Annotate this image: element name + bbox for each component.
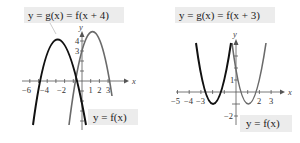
right-f-curve [232,43,266,104]
right-y-label: y [232,29,237,39]
left-ytick-3: 3 [75,46,79,56]
left-title-label: y = g(x) = f(x + 4) [28,9,109,22]
figure: y = g(x) = f(x + 4) x y [0,0,300,143]
left-ytick-4: 4 [75,36,80,46]
right-g-curve [196,43,231,104]
left-graph: y = g(x) = f(x + 4) x y [22,7,138,130]
left-xtick-1: 1 [89,85,93,95]
right-x-arrow-icon [280,90,285,95]
right-graph: y = g(x) = f(x + 3) x y −5 [171,7,292,132]
right-ytick-neg2: −2 [224,111,233,121]
right-xtick-neg5: −5 [171,96,180,106]
left-x-label: x [131,76,136,86]
right-xtick-neg4: −4 [184,96,194,106]
right-x-label: x [287,87,292,97]
left-xtick-2: 2 [97,85,101,95]
left-xtick-neg6: −6 [22,85,31,95]
left-title-pointer [50,23,56,34]
right-xtick-3: 3 [269,96,273,106]
right-f-label: y = f(x) [246,117,280,130]
right-xtick-neg3: −3 [196,96,205,106]
left-xtick-neg2: −2 [57,85,66,95]
right-xtick-2: 2 [257,96,261,106]
left-y-label: y [78,22,83,32]
left-xtick-3: 3 [106,85,110,95]
right-ytick-1: 1 [230,75,234,85]
left-f-label: y = f(x) [93,111,127,124]
right-title-label: y = g(x) = f(x + 3) [179,9,260,22]
left-xtick-neg4: −4 [40,85,50,95]
left-x-arrow-icon [124,79,129,84]
